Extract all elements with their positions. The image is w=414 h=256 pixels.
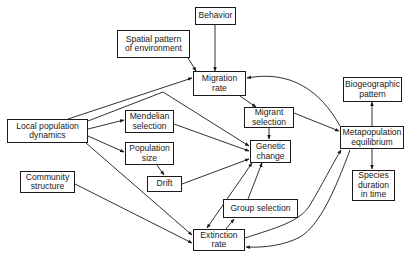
node-label: Metapopulation equilibrium (343, 128, 402, 147)
edge-popsize-drift (157, 165, 164, 175)
node-label: Species duration in time (358, 171, 389, 200)
node-label: Community structure (26, 173, 69, 192)
edge-groupsel-genetic (248, 163, 262, 199)
node-label: Genetic change (256, 142, 286, 161)
edge-localpop-mendelian (88, 120, 124, 129)
node-label: Spatial pattern of environment (125, 35, 182, 54)
node-biogeographic-pattern: Biogeographic pattern (343, 77, 402, 102)
node-population-size: Population size (125, 142, 174, 165)
node-metapopulation-equilibrium: Metapopulation equilibrium (340, 126, 404, 149)
edge-drift-genetic (182, 159, 249, 184)
edge-extinction-metapop (245, 150, 341, 238)
node-label: Mendelian selection (130, 112, 170, 131)
node-mendelian-selection: Mendelian selection (125, 110, 174, 133)
node-label: Extinction rate (200, 231, 237, 250)
node-label: Population size (129, 144, 170, 163)
edge-spatial-migration (188, 58, 196, 71)
node-behavior: Behavior (195, 7, 236, 25)
node-genetic-change: Genetic change (250, 140, 291, 163)
node-label: Migrant selection (252, 108, 286, 127)
edge-community-extinction (75, 184, 192, 243)
node-migration-rate: Migration rate (193, 71, 246, 96)
node-spatial-pattern: Spatial pattern of environment (117, 30, 190, 58)
node-extinction-rate: Extinction rate (193, 229, 245, 251)
edge-genetic-extinction (207, 163, 252, 228)
node-label: Behavior (199, 11, 233, 21)
node-migrant-selection: Migrant selection (244, 107, 294, 128)
edge-migrantsel-metapop (294, 113, 339, 131)
node-label: Biogeographic pattern (345, 80, 400, 99)
node-community-structure: Community structure (20, 171, 75, 193)
node-label: Group selection (230, 204, 290, 214)
node-group-selection: Group selection (223, 199, 298, 218)
edge-migration-migrantsel (240, 96, 256, 107)
node-label: Migration rate (202, 74, 237, 93)
node-label: Local population dynamics (16, 122, 79, 141)
edge-extinction-groupsel (226, 219, 234, 229)
node-species-duration: Species duration in time (352, 170, 395, 201)
node-local-population-dynamics: Local population dynamics (7, 119, 88, 143)
node-label: Drift (157, 179, 173, 189)
edge-mendelian-genetic (174, 124, 249, 151)
node-drift: Drift (147, 176, 182, 192)
metapopulation-diagram: Behavior Spatial pattern of environment … (0, 0, 414, 256)
